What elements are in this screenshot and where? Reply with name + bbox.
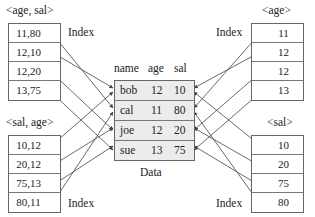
index-label-age: Index <box>216 26 242 38</box>
index-entry: 75,13 <box>9 174 60 193</box>
index-title-age-sal: <age, sal> <box>6 4 53 16</box>
data-table-label: Data <box>140 166 162 178</box>
data-row: bob 12 10 <box>115 81 194 101</box>
index-age: 11 12 12 13 <box>251 23 304 101</box>
cell-sal: 80 <box>174 101 186 120</box>
data-row: joe 12 20 <box>115 121 194 141</box>
index-entry: 13,75 <box>9 81 60 100</box>
index-label-sal: Index <box>216 197 242 209</box>
column-header-name: name <box>114 62 139 74</box>
index-label-sal-age: Index <box>68 197 94 209</box>
index-entry: 20,12 <box>9 155 60 174</box>
index-entry: 12,10 <box>9 43 60 62</box>
data-row: sue 13 75 <box>115 141 194 160</box>
data-row: cal 11 80 <box>115 101 194 121</box>
cell-age: 12 <box>151 81 163 100</box>
cell-name: bob <box>120 81 137 100</box>
cell-name: cal <box>120 101 133 120</box>
index-entry: 20 <box>252 155 303 174</box>
index-entry: 13 <box>252 81 303 100</box>
index-entry: 75 <box>252 174 303 193</box>
data-table: bob 12 10 cal 11 80 joe 12 20 sue 13 75 <box>114 80 195 161</box>
index-title-sal: <sal> <box>267 116 293 128</box>
index-entry: 80 <box>252 193 303 212</box>
index-entry: 80,11 <box>9 193 60 212</box>
index-title-sal-age: <sal, age> <box>6 116 53 128</box>
index-title-age: <age> <box>262 4 291 16</box>
index-entry: 11 <box>252 24 303 43</box>
index-entry: 12 <box>252 43 303 62</box>
index-entry: 10,12 <box>9 136 60 155</box>
column-header-age: age <box>148 62 164 74</box>
cell-sal: 10 <box>174 81 186 100</box>
index-entry: 12 <box>252 62 303 81</box>
cell-name: sue <box>120 141 135 160</box>
cell-age: 11 <box>151 101 162 120</box>
index-age-sal: 11,80 12,10 12,20 13,75 <box>8 23 61 101</box>
index-sal: 10 20 75 80 <box>251 135 304 213</box>
cell-age: 13 <box>151 141 163 160</box>
cell-age: 12 <box>151 121 163 140</box>
index-entry: 11,80 <box>9 24 60 43</box>
cell-sal: 20 <box>174 121 186 140</box>
cell-sal: 75 <box>174 141 186 160</box>
column-header-sal: sal <box>174 62 187 74</box>
index-sal-age: 10,12 20,12 75,13 80,11 <box>8 135 61 213</box>
index-entry: 10 <box>252 136 303 155</box>
cell-name: joe <box>120 121 134 140</box>
index-entry: 12,20 <box>9 62 60 81</box>
index-label-age-sal: Index <box>68 26 94 38</box>
